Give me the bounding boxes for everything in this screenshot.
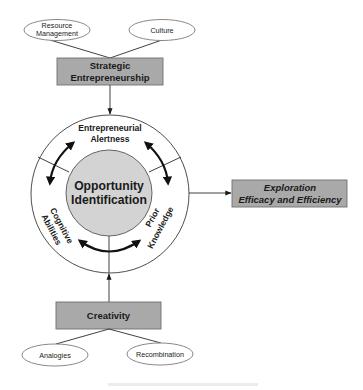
recombination-node: Recombination: [127, 343, 193, 365]
exploration-label-1: Exploration: [264, 182, 316, 193]
resource-management-node: Resource Management: [24, 20, 90, 41]
resource-management-label-2: Management: [36, 29, 78, 38]
culture-label: Culture: [150, 26, 173, 35]
bottom-connectors: [56, 329, 161, 344]
creativity-label: Creativity: [87, 310, 131, 321]
creativity-box: Creativity: [56, 302, 161, 329]
caption-fragment: [108, 383, 258, 386]
core-label-1: Opportunity: [74, 179, 144, 193]
analogies-label: Analogies: [39, 351, 71, 360]
analogies-node: Analogies: [22, 344, 88, 366]
strategic-entrepreneurship-label-2: Entrepreneurship: [70, 72, 149, 83]
entrepreneurial-alertness-label-2: Alertness: [90, 134, 129, 144]
top-connectors: [50, 40, 162, 58]
entrepreneurial-alertness-label-1: Entrepreneurial: [78, 123, 142, 133]
exploration-label-2: Efficacy and Efficiency: [238, 194, 342, 205]
strategic-entrepreneurship-label-1: Strategic: [90, 60, 131, 71]
exploration-box: Exploration Efficacy and Efficiency: [232, 180, 347, 207]
core-label-2: Identification: [71, 193, 147, 207]
strategic-entrepreneurship-box: Strategic Entrepreneurship: [57, 58, 163, 85]
recombination-label: Recombination: [136, 350, 184, 359]
opportunity-identification-diagram: Resource Management Culture Strategic En…: [0, 0, 363, 390]
core-circle: Opportunity Identification: [66, 150, 152, 236]
culture-node: Culture: [129, 20, 195, 41]
